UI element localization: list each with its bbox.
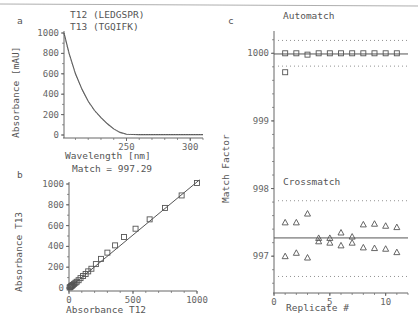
automatch-point — [339, 51, 344, 56]
spectrum-line — [64, 34, 203, 135]
y-tick-label: 998 — [253, 184, 269, 194]
match-annotation: Match = 997.29 — [72, 163, 152, 174]
y-tick-label: 800 — [48, 200, 64, 210]
panel-a-xlabel: Wavelength [nm] — [65, 150, 151, 161]
panel-b-xlabel: Absorbance T12 — [66, 304, 146, 315]
figure: a T12 (LEDGSPR) T13 (TGQIFK) Absorbance … — [0, 0, 418, 325]
y-tick-label: 1000 — [42, 179, 64, 189]
panel-b-axes: 0200400600800100005001000 — [42, 179, 208, 305]
y-tick-label: 600 — [43, 69, 59, 79]
y-tick-label: 1000 — [247, 48, 269, 58]
automatch-point — [350, 51, 355, 56]
automatch-point — [361, 51, 366, 56]
y-tick-label: 0 — [54, 130, 59, 140]
panel-a-axes: 02004006008001000250300 — [37, 28, 203, 152]
panel-c-xlabel: Replicate # — [286, 302, 349, 313]
crossmatch-point — [383, 246, 389, 252]
y-tick-label: 800 — [43, 48, 59, 58]
crossmatch-point — [372, 221, 378, 227]
panel-a: a T12 (LEDGSPR) T13 (TGQIFK) Absorbance … — [10, 9, 203, 174]
y-tick-label: 600 — [48, 221, 64, 231]
panel-c-axes: 99799899910000510 — [247, 31, 408, 307]
data-point — [133, 226, 138, 231]
data-point — [122, 235, 127, 240]
automatch-point — [394, 51, 399, 56]
spectrum-line — [64, 33, 203, 135]
panel-b-ylabel: Absorbance T13 — [13, 212, 24, 292]
x-tick-label: 1000 — [186, 295, 208, 305]
panel-b: b Absorbance T13 02004006008001000050010… — [13, 169, 208, 315]
top-rule — [0, 4, 418, 6]
crossmatch-point — [293, 250, 299, 256]
crossmatch-point — [338, 242, 344, 248]
y-tick-label: 997 — [253, 251, 269, 261]
y-tick-label: 0 — [59, 283, 64, 293]
panel-b-letter: b — [17, 169, 23, 180]
y-tick-label: 200 — [43, 110, 59, 120]
crossmatch-point — [338, 230, 344, 236]
y-tick-label: 400 — [48, 241, 64, 251]
panel-c-ylabel: Match Factor — [220, 134, 231, 203]
automatch-point — [283, 51, 288, 56]
crossmatch-point — [293, 219, 299, 225]
y-tick-label: 400 — [43, 89, 59, 99]
panel-c-letter: c — [228, 15, 234, 26]
crossmatch-point — [372, 245, 378, 251]
x-tick-label: 0 — [271, 297, 276, 307]
crossmatch-point — [383, 223, 389, 229]
automatch-point — [383, 51, 388, 56]
automatch-point — [294, 51, 299, 56]
panel-a-letter: a — [17, 15, 23, 26]
crossmatch-point — [360, 244, 366, 250]
automatch-point — [316, 51, 321, 56]
crossmatch-point — [305, 255, 311, 261]
x-tick-label: 300 — [182, 142, 198, 152]
x-tick-label: 10 — [380, 297, 391, 307]
automatch-label: Automatch — [283, 10, 334, 21]
crossmatch-point — [394, 249, 400, 255]
crossmatch-point — [282, 253, 288, 259]
y-tick-label: 999 — [253, 116, 269, 126]
automatch-point — [283, 70, 288, 75]
panel-a-title-2: T13 (TGQIFK) — [70, 21, 139, 32]
crossmatch-label: Crossmatch — [283, 176, 340, 187]
crossmatch-point — [360, 221, 366, 227]
automatch-point — [327, 51, 332, 56]
panel-c: c Automatch Crossmatch Match Factor 9979… — [220, 10, 408, 313]
crossmatch-point — [349, 240, 355, 246]
automatch-point — [372, 51, 377, 56]
crossmatch-point — [394, 224, 400, 230]
y-tick-label: 200 — [48, 262, 64, 272]
automatch-point — [305, 52, 310, 57]
y-tick-label: 1000 — [37, 28, 59, 38]
crossmatch-point — [305, 211, 311, 217]
crossmatch-point — [282, 219, 288, 225]
panel-a-ylabel: Absorbance [mAU] — [10, 46, 21, 138]
data-point — [113, 243, 118, 248]
panel-a-title-1: T12 (LEDGSPR) — [70, 9, 144, 20]
